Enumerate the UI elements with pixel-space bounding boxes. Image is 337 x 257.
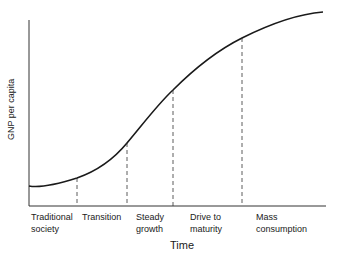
gnp-curve [29,12,323,187]
stage-label-line1: Mass [256,211,307,223]
stage-label-line1: Traditional [31,211,73,223]
stage-label-line2: maturity [190,223,222,235]
stage-label-line1: Steady [136,211,164,223]
stage-traditional-society: Traditional society [31,211,73,235]
stage-label-line2: growth [136,223,164,235]
stage-drive-to-maturity: Drive to maturity [190,211,222,235]
y-axis-label: GNP per capita [6,79,16,140]
stage-transition: Transition [82,211,121,223]
x-axis-label: Time [170,239,194,251]
stage-mass-consumption: Mass consumption [256,211,307,235]
stage-steady-growth: Steady growth [136,211,164,235]
stage-label-line2: society [31,223,73,235]
stage-label-line1: Drive to [190,211,222,223]
stage-label-line2: consumption [256,223,307,235]
stage-boundaries [77,38,242,206]
stage-label-line1: Transition [82,211,121,223]
